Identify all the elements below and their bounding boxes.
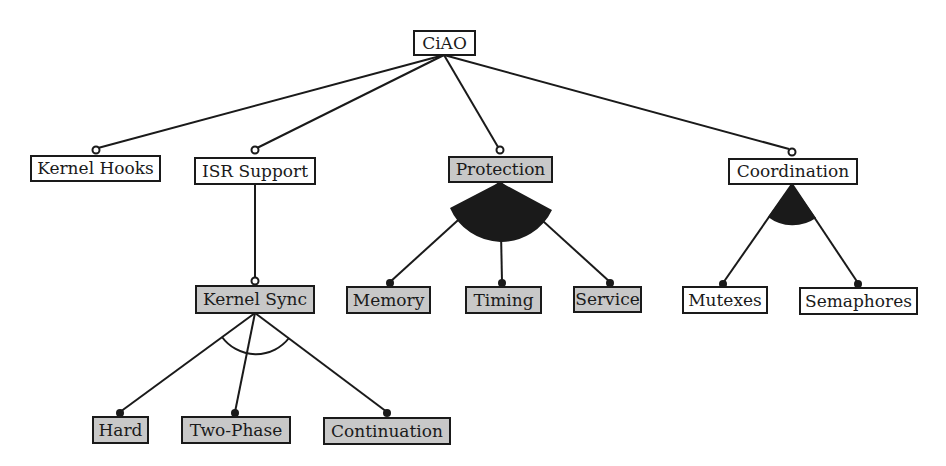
connector-lines <box>0 0 946 466</box>
node-label: Kernel Hooks <box>37 160 154 177</box>
node-label: Memory <box>353 292 425 309</box>
alternative-group-arc-icon <box>222 337 289 354</box>
edge-ciao-kernel-hooks <box>98 55 444 148</box>
node-semaphores: Semaphores <box>799 287 918 315</box>
node-hard: Hard <box>92 416 149 444</box>
edge-kernel-sync-continuation <box>255 313 387 412</box>
node-mutexes: Mutexes <box>682 286 768 314</box>
node-service: Service <box>573 286 642 313</box>
edge-ciao-protection <box>444 55 498 147</box>
node-label: Two-Phase <box>190 422 283 439</box>
node-two-phase: Two-Phase <box>181 416 291 444</box>
edge-ciao-isr-support <box>257 55 444 148</box>
or-group-arc-icon <box>450 182 552 242</box>
feature-diagram: CiAO Kernel Hooks ISR Support Protection… <box>0 0 946 466</box>
node-continuation: Continuation <box>323 417 451 445</box>
node-label: Continuation <box>331 423 443 440</box>
node-label: Kernel Sync <box>203 291 307 308</box>
or-group-arc-icon <box>768 184 816 225</box>
node-kernel-hooks: Kernel Hooks <box>30 155 161 182</box>
edge-ciao-coordination <box>444 55 789 149</box>
node-label: CiAO <box>422 35 467 52</box>
node-label: ISR Support <box>202 163 308 180</box>
mandatory-marker-icon <box>383 409 391 417</box>
optional-marker-icon <box>252 278 259 285</box>
node-protection: Protection <box>448 156 553 183</box>
node-label: Service <box>575 291 639 308</box>
node-timing: Timing <box>465 286 542 314</box>
node-memory: Memory <box>346 286 431 314</box>
node-label: Coordination <box>737 163 849 180</box>
edge-kernel-sync-hard <box>120 313 255 412</box>
node-label: Mutexes <box>688 292 762 309</box>
node-ciao: CiAO <box>413 30 476 56</box>
optional-marker-icon <box>93 147 100 154</box>
node-label: Timing <box>473 292 533 309</box>
node-isr-support: ISR Support <box>194 157 316 185</box>
node-label: Hard <box>99 422 143 439</box>
edge-kernel-sync-two-phase <box>235 313 255 412</box>
optional-marker-icon <box>497 147 504 154</box>
node-label: Semaphores <box>805 293 912 310</box>
node-kernel-sync: Kernel Sync <box>195 285 315 314</box>
node-coordination: Coordination <box>728 158 858 185</box>
optional-marker-icon <box>789 149 796 156</box>
optional-marker-icon <box>252 147 259 154</box>
node-label: Protection <box>456 161 546 178</box>
